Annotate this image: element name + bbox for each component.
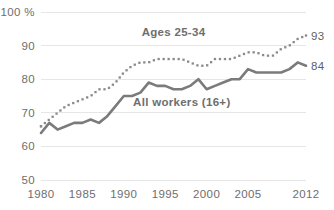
series-dot-0 bbox=[206, 64, 208, 66]
series-dot-0 bbox=[173, 58, 175, 60]
x-axis-tick-label: 2012 bbox=[292, 188, 319, 200]
series-dot-0 bbox=[248, 51, 250, 53]
series-dot-0 bbox=[296, 38, 298, 40]
series-dot-0 bbox=[219, 58, 221, 60]
x-axis-tick-label: 2005 bbox=[234, 188, 261, 200]
series-dot-0 bbox=[187, 60, 189, 62]
series-dot-0 bbox=[234, 57, 236, 59]
series-dot-0 bbox=[224, 58, 226, 60]
series-dot-0 bbox=[90, 94, 92, 96]
series-annotation-0: Ages 25-34 bbox=[142, 26, 206, 38]
series-dot-0 bbox=[134, 64, 136, 66]
series-dot-0 bbox=[168, 58, 170, 60]
series-dot-0 bbox=[103, 88, 105, 90]
series-dot-0 bbox=[63, 106, 65, 108]
series-dot-0 bbox=[77, 100, 79, 102]
series-dot-0 bbox=[122, 72, 124, 74]
series-dot-0 bbox=[182, 59, 184, 61]
series-dot-0 bbox=[40, 125, 42, 127]
y-axis-tick-label: 50 bbox=[21, 174, 35, 186]
series-dot-0 bbox=[301, 36, 303, 38]
series-dot-0 bbox=[148, 61, 150, 63]
series-dot-0 bbox=[158, 58, 160, 60]
series-dot-0 bbox=[293, 41, 295, 43]
series-dot-0 bbox=[153, 59, 155, 61]
series-annotation-1: All workers (16+) bbox=[133, 96, 230, 108]
series-dot-0 bbox=[48, 119, 50, 121]
series-dot-0 bbox=[210, 61, 212, 63]
series-dot-0 bbox=[243, 53, 245, 55]
series-dot-0 bbox=[192, 62, 194, 64]
series-dot-0 bbox=[214, 58, 216, 60]
series-dot-0 bbox=[280, 48, 282, 50]
series-dot-0 bbox=[52, 116, 54, 118]
series-dot-0 bbox=[72, 102, 74, 104]
x-axis-tick-label: 1980 bbox=[27, 188, 54, 200]
series-dot-0 bbox=[138, 62, 140, 64]
series-dot-0 bbox=[143, 61, 145, 63]
y-axis-tick-label: 100 % bbox=[0, 6, 35, 18]
series-dot-0 bbox=[289, 44, 291, 46]
series-dot-0 bbox=[94, 91, 96, 93]
series-dot-0 bbox=[163, 58, 165, 60]
x-axis-tick-label: 2000 bbox=[193, 188, 220, 200]
series-dot-0 bbox=[115, 80, 117, 82]
series-dot-0 bbox=[67, 104, 69, 106]
y-axis-tick-label: 80 bbox=[21, 73, 35, 85]
series-dot-0 bbox=[81, 98, 83, 100]
series-dot-0 bbox=[267, 55, 269, 57]
series-dot-0 bbox=[238, 55, 240, 57]
x-axis-tick-label: 1995 bbox=[152, 188, 179, 200]
series-dot-0 bbox=[112, 84, 114, 86]
series-dot-0 bbox=[86, 96, 88, 98]
series-end-label-1: 84 bbox=[311, 60, 325, 72]
series-dot-0 bbox=[55, 112, 57, 114]
x-axis-tick-label: 1985 bbox=[69, 188, 96, 200]
series-dot-0 bbox=[262, 54, 264, 56]
series-dot-0 bbox=[129, 66, 131, 68]
series-dot-0 bbox=[272, 54, 274, 56]
series-dot-0 bbox=[229, 58, 231, 60]
y-axis-tick-label: 60 bbox=[21, 140, 35, 152]
chart-container: 100 %90807060501980198519901995200020052… bbox=[0, 0, 334, 210]
series-dot-0 bbox=[201, 65, 203, 67]
series-dot-0 bbox=[305, 34, 307, 36]
series-dot-0 bbox=[253, 51, 255, 53]
series-dot-0 bbox=[284, 46, 286, 48]
series-end-label-0: 93 bbox=[311, 30, 325, 42]
series-dot-0 bbox=[178, 58, 180, 60]
x-axis-tick-label: 1990 bbox=[110, 188, 137, 200]
y-axis-tick-label: 90 bbox=[21, 40, 35, 52]
series-dot-0 bbox=[44, 122, 46, 124]
series-dot-0 bbox=[196, 64, 198, 66]
series-dot-0 bbox=[98, 88, 100, 90]
series-dot-0 bbox=[257, 52, 259, 54]
series-dot-0 bbox=[108, 87, 110, 89]
series-dot-0 bbox=[119, 76, 121, 78]
chart-plot: 100 %90807060501980198519901995200020052… bbox=[0, 0, 334, 210]
y-axis-tick-label: 70 bbox=[21, 107, 35, 119]
series-dot-0 bbox=[276, 51, 278, 53]
series-dot-0 bbox=[59, 109, 61, 111]
series-dot-0 bbox=[125, 69, 127, 71]
